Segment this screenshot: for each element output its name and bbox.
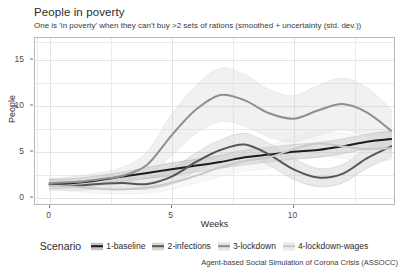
legend-swatch-icon bbox=[283, 242, 295, 251]
x-axis-label: Weeks bbox=[34, 219, 395, 229]
y-tick-label: 0 bbox=[19, 192, 24, 202]
legend-item-2-infections[interactable]: 2-infections bbox=[152, 241, 210, 251]
y-tick-mark bbox=[30, 196, 33, 197]
legend-swatch-icon bbox=[218, 242, 230, 251]
chart-title: People in poverty bbox=[34, 6, 125, 18]
y-tick-mark bbox=[30, 104, 33, 105]
chart-subtitle: One is 'in poverty' when they can't buy … bbox=[34, 21, 361, 30]
legend-label: 1-baseline bbox=[106, 241, 145, 251]
legend-item-3-lockdown[interactable]: 3-lockdown bbox=[218, 241, 276, 251]
legend-label: 3-lockdown bbox=[233, 241, 276, 251]
plot-panel bbox=[34, 37, 395, 205]
y-tick-label: 15 bbox=[15, 54, 24, 64]
legend-swatch-icon bbox=[152, 242, 164, 251]
x-tick-mark bbox=[293, 205, 294, 208]
y-axis-label: People bbox=[7, 74, 17, 144]
legend-title: Scenario bbox=[40, 240, 81, 252]
legend-swatch-icon bbox=[91, 242, 103, 251]
legend-label: 2-infections bbox=[167, 241, 210, 251]
legend-item-4-lockdown-wages[interactable]: 4-lockdown-wages bbox=[283, 241, 368, 251]
y-tick-label: 5 bbox=[19, 146, 24, 156]
chart-figure: People in poverty One is 'in poverty' wh… bbox=[0, 0, 408, 278]
x-tick-mark bbox=[171, 205, 172, 208]
legend-item-1-baseline[interactable]: 1-baseline bbox=[91, 241, 145, 251]
footnote: Agent-based Social Simulation of Corona … bbox=[201, 258, 398, 267]
legend-label: 4-lockdown-wages bbox=[298, 241, 368, 251]
series-layer bbox=[35, 38, 395, 205]
legend: Scenario 1-baseline2-infections3-lockdow… bbox=[0, 240, 408, 252]
x-tick-mark bbox=[49, 205, 50, 208]
y-tick-mark bbox=[30, 150, 33, 151]
y-tick-mark bbox=[30, 59, 33, 60]
